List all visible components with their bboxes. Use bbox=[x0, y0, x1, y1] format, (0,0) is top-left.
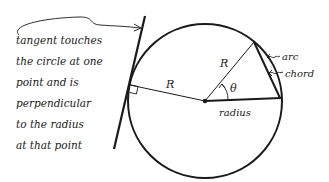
angled-radius-label: R bbox=[219, 57, 228, 70]
tangent-radius-label: R bbox=[165, 78, 174, 91]
horizontal-radius-label: radius bbox=[219, 107, 251, 118]
note-line-3: point and is bbox=[16, 76, 79, 88]
right-angle-marker bbox=[129, 85, 138, 94]
arc-label: arc bbox=[282, 51, 299, 62]
note-line-5: to the radius bbox=[16, 118, 85, 130]
note-arrow bbox=[17, 17, 140, 35]
horizontal-radius bbox=[205, 98, 281, 101]
angle-label: θ bbox=[230, 82, 237, 95]
note-line-6: at that point bbox=[16, 139, 83, 151]
tangent-note: tangent touches the circle at one point … bbox=[16, 34, 103, 151]
angle-arc bbox=[222, 84, 228, 100]
circle-tangent-diagram: tangent touches the circle at one point … bbox=[0, 0, 329, 182]
chord-label: chord bbox=[285, 68, 314, 79]
note-line-1: tangent touches bbox=[16, 34, 103, 46]
note-line-4: perpendicular bbox=[16, 97, 92, 109]
arc-pointer bbox=[268, 56, 280, 58]
note-line-2: the circle at one bbox=[16, 55, 103, 67]
